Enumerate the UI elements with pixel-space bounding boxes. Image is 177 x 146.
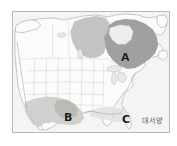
region-label-b: B — [64, 112, 72, 123]
north-america-map-graphic — [13, 12, 169, 132]
figure-root: A B C 대서양 — [0, 0, 177, 146]
map-frame: A B C 대서양 — [12, 11, 170, 133]
ocean-label-atlantic: 대서양 — [142, 115, 163, 125]
region-label-c: C — [122, 114, 130, 125]
region-label-a: A — [121, 52, 130, 63]
